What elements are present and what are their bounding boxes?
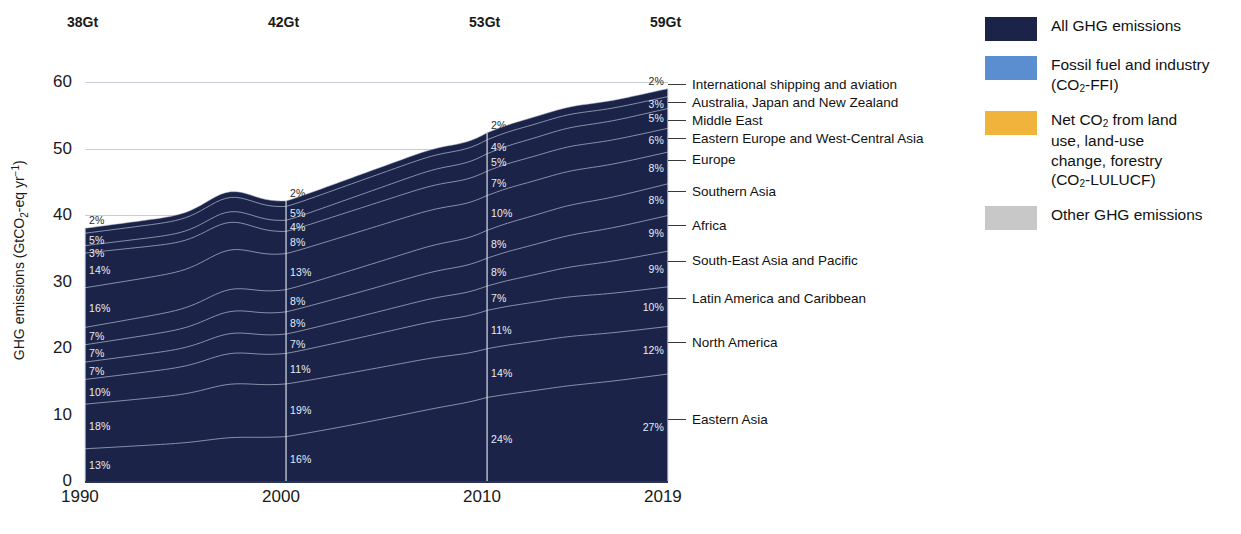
percent-label: 11%	[290, 363, 311, 375]
callout-leader-line	[668, 84, 686, 85]
legend-swatch	[985, 17, 1037, 41]
region-callout-label: Africa	[692, 219, 727, 233]
callout-leader-line	[668, 261, 686, 262]
legend-swatch	[985, 206, 1037, 230]
region-callout: Latin America and Caribbean	[668, 292, 866, 306]
percent-label: 24%	[491, 433, 512, 445]
percent-label: 5%	[638, 112, 664, 124]
region-callout: Middle East	[668, 114, 763, 128]
percent-label: 12%	[638, 344, 664, 356]
percent-label: 8%	[290, 236, 305, 248]
legend-label-line: use, land-use	[1051, 131, 1177, 151]
region-callout: South-East Asia and Pacific	[668, 254, 858, 268]
percent-label: 13%	[290, 266, 311, 278]
legend-label: All GHG emissions	[1051, 16, 1181, 36]
percent-label: 6%	[638, 134, 664, 146]
percent-label: 9%	[638, 227, 664, 239]
region-callout: Eastern Europe and West-Central Asia	[668, 132, 924, 146]
percent-label: 18%	[89, 420, 110, 432]
x-axis-tick-label: 2010	[463, 487, 501, 507]
callout-leader-line	[668, 298, 686, 299]
percent-label: 8%	[491, 238, 506, 250]
percent-label: 14%	[89, 264, 110, 276]
region-callout-label: Middle East	[692, 114, 763, 128]
percent-label: 2%	[491, 119, 506, 131]
percent-label: 14%	[491, 367, 512, 379]
legend-label-line: Other GHG emissions	[1051, 205, 1203, 225]
callout-leader-line	[668, 419, 686, 420]
percent-label: 10%	[638, 301, 664, 313]
percent-label: 2%	[89, 214, 104, 226]
legend-item[interactable]: Fossil fuel and industry(CO2-FFI)	[985, 55, 1235, 96]
callout-leader-line	[668, 191, 686, 192]
percent-label: 8%	[638, 162, 664, 174]
percent-label: 3%	[638, 98, 664, 110]
region-callout: International shipping and aviation	[668, 78, 897, 92]
percent-label: 19%	[290, 404, 311, 416]
region-callout-label: Eastern Europe and West-Central Asia	[692, 132, 924, 146]
region-callout: Eastern Asia	[668, 413, 768, 427]
region-callout: North America	[668, 336, 778, 350]
top-total-label: 53Gt	[469, 14, 500, 30]
percent-label: 11%	[491, 324, 512, 336]
legend-swatch	[985, 111, 1037, 135]
percent-label: 8%	[491, 266, 506, 278]
region-callout-label: Australia, Japan and New Zealand	[692, 96, 898, 110]
region-callout-label: Europe	[692, 153, 736, 167]
percent-label: 7%	[89, 330, 104, 342]
percent-label: 5%	[89, 234, 104, 246]
percent-label: 4%	[290, 221, 305, 233]
area-fill-all-ghg	[85, 89, 668, 481]
top-total-label: 42Gt	[268, 14, 299, 30]
x-axis-tick-label: 1990	[61, 487, 99, 507]
callout-leader-line	[668, 120, 686, 121]
callout-leader-line	[668, 160, 686, 161]
region-callout: Europe	[668, 153, 736, 167]
callout-leader-line	[668, 225, 686, 226]
percent-label: 2%	[638, 75, 664, 87]
chart-plot-area: GHG emissions (GtCO2-eq yr−1) 0102030405…	[0, 0, 700, 534]
percent-label: 7%	[290, 338, 305, 350]
region-callout-label: North America	[692, 336, 778, 350]
top-total-label: 38Gt	[67, 14, 98, 30]
percent-label: 16%	[89, 302, 110, 314]
legend-swatch	[985, 56, 1037, 80]
region-callout: Australia, Japan and New Zealand	[668, 96, 898, 110]
region-callout-label: Latin America and Caribbean	[692, 292, 866, 306]
legend-label-line: change, forestry	[1051, 151, 1177, 171]
legend-label: Other GHG emissions	[1051, 205, 1203, 225]
legend-label-line: All GHG emissions	[1051, 16, 1181, 36]
percent-label: 8%	[638, 194, 664, 206]
legend-item[interactable]: Net CO2 from landuse, land-usechange, fo…	[985, 110, 1235, 192]
percent-label: 8%	[290, 317, 305, 329]
legend-label-line: (CO2-FFI)	[1051, 75, 1210, 96]
x-axis-tick-label: 2000	[262, 487, 300, 507]
percent-label: 5%	[290, 207, 305, 219]
callout-leader-line	[668, 342, 686, 343]
percent-label: 16%	[290, 453, 311, 465]
percent-label: 7%	[89, 365, 104, 377]
legend-label: Fossil fuel and industry(CO2-FFI)	[1051, 55, 1210, 96]
region-callout: Southern Asia	[668, 185, 776, 199]
percent-label: 10%	[491, 207, 512, 219]
percent-label: 27%	[638, 421, 664, 433]
region-callout-label: South-East Asia and Pacific	[692, 254, 858, 268]
legend: All GHG emissionsFossil fuel and industr…	[985, 16, 1235, 244]
percent-label: 10%	[89, 386, 110, 398]
legend-item[interactable]: All GHG emissions	[985, 16, 1235, 41]
region-callout-label: Southern Asia	[692, 185, 776, 199]
callout-leader-line	[668, 138, 686, 139]
callout-leader-line	[668, 102, 686, 103]
legend-item[interactable]: Other GHG emissions	[985, 205, 1235, 230]
percent-label: 8%	[290, 295, 305, 307]
legend-label-line: Fossil fuel and industry	[1051, 55, 1210, 75]
x-axis-line	[85, 481, 668, 483]
region-callout-label: Eastern Asia	[692, 413, 768, 427]
percent-label: 2%	[290, 187, 305, 199]
percent-label: 7%	[491, 292, 506, 304]
legend-label: Net CO2 from landuse, land-usechange, fo…	[1051, 110, 1177, 192]
region-callout-label: International shipping and aviation	[692, 78, 897, 92]
percent-label: 7%	[491, 177, 506, 189]
percent-label: 3%	[89, 247, 104, 259]
percent-label: 5%	[491, 156, 506, 168]
